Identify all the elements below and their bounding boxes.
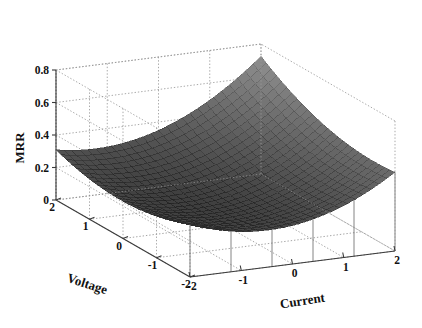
plot-canvas: 00.20.40.60.8210-1-2-2-1012MRRVoltageCur…: [0, 0, 422, 328]
surface-plot-figure: 00.20.40.60.8210-1-2-2-1012MRRVoltageCur…: [0, 0, 422, 328]
current-tick-mark: [240, 266, 241, 271]
voltage-tick-label: 2: [49, 201, 55, 213]
z-tick-label: 0.8: [35, 64, 50, 76]
current-tick-mark: [343, 253, 344, 258]
current-tick-label: -1: [238, 274, 248, 286]
current-tick-mark: [292, 259, 293, 264]
current-tick-label: -2: [187, 280, 197, 292]
z-tick-label: 0.4: [35, 129, 50, 141]
voltage-tick-label: 1: [83, 220, 89, 232]
current-axis-title: Current: [279, 290, 327, 312]
z-tick-label: 0.6: [35, 97, 50, 109]
voltage-axis-title: Voltage: [65, 270, 109, 297]
voltage-tick-label: -1: [148, 259, 158, 271]
voltage-tick-label: 0: [116, 240, 122, 252]
current-tick-label: 0: [292, 267, 298, 279]
z-tick-label: 0.2: [35, 162, 50, 174]
current-tick-label: 2: [394, 254, 400, 266]
gridline-floor-v: [157, 232, 362, 258]
current-tick-label: 1: [343, 261, 349, 273]
z-axis-title: MRR: [12, 132, 27, 164]
